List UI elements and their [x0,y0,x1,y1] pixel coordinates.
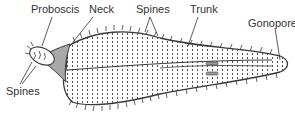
label-proboscis: Proboscis [31,3,79,15]
leader-trunk [188,17,198,46]
leader-spines-left-b [22,66,36,84]
leader-spines-top-a [145,17,150,32]
label-spines-left: Spines [6,85,40,97]
gonad-mark-lower [206,72,218,75]
label-neck: Neck [89,3,114,15]
trunk-body [64,32,288,105]
gonad-mark-upper [206,62,218,65]
leader-spines-top-b [150,17,158,36]
label-trunk: Trunk [190,3,218,15]
label-spines-top: Spines [136,3,170,15]
leader-proboscis [42,17,52,46]
label-gonopore: Gonopore [248,17,295,29]
